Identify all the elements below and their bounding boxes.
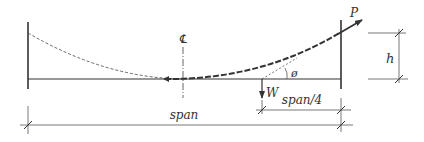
centerline-symbol: ℄ (179, 32, 187, 46)
cable-curve-right (165, 32, 341, 79)
weight-label: W (266, 86, 280, 100)
cable-diagram: ℄ P ø W h span/4 span (0, 0, 424, 142)
tension-label: P (349, 6, 359, 20)
cable-curve-left (28, 33, 183, 79)
quarter-span-label: span/4 (282, 93, 322, 107)
height-label: h (386, 51, 394, 66)
low-point-arrow-icon (163, 76, 169, 82)
angle-label: ø (290, 67, 298, 80)
angle-arc (285, 68, 287, 79)
span-label: span (170, 108, 199, 122)
